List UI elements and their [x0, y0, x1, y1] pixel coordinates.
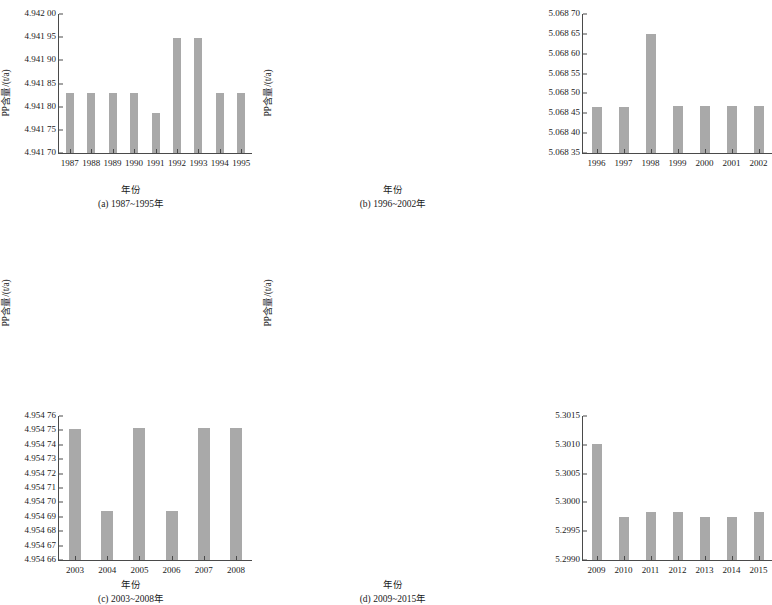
x-tick-b-4 — [705, 149, 706, 153]
x-tick-label-d-2011: 2011 — [642, 565, 660, 575]
bar-a-1993 — [194, 38, 202, 153]
bar-b-2000 — [700, 106, 710, 153]
bar-a-1994 — [216, 93, 224, 153]
bar-a-1990 — [130, 93, 138, 153]
bar-a-1995 — [237, 93, 245, 153]
x-tick-label-c-2007: 2007 — [195, 565, 213, 575]
y-tick-label-b-4: 5.068 50 — [549, 87, 581, 97]
x-tick-b-3 — [678, 149, 679, 153]
bar-b-1999 — [673, 106, 683, 153]
bar-d-2010 — [619, 517, 629, 560]
x-tick-label-b-2002: 2002 — [750, 158, 768, 168]
y-tick-label-a-3: 4.941 85 — [25, 77, 57, 87]
x-tick-d-1 — [624, 556, 625, 560]
y-tick-label-a-0: 4.942 00 — [25, 8, 57, 18]
y-tick-label-a-6: 4.941 70 — [25, 147, 57, 157]
bar-a-1988 — [87, 93, 95, 153]
bar-d-2011 — [646, 512, 656, 560]
x-tick-d-5 — [732, 556, 733, 560]
x-tick-label-b-2001: 2001 — [723, 158, 741, 168]
y-tick-label-c-7: 4.954 69 — [25, 510, 57, 520]
x-tick-label-c-2006: 2006 — [163, 565, 181, 575]
x-tick-label-a-1990: 1990 — [125, 158, 143, 168]
x-tick-label-d-2010: 2010 — [615, 565, 633, 575]
y-tick-label-b-7: 5.068 35 — [549, 147, 581, 157]
y-tick-label-d-4: 5.2995 — [555, 525, 580, 535]
chart-panel-b: PP含量/(t/a) 5.068 705.068 655.068 605.068… — [262, 0, 524, 211]
y-axis-label-d: PP含量/(t/a) — [260, 228, 274, 378]
x-tick-a-6 — [198, 149, 199, 153]
bar-a-1987 — [66, 93, 74, 153]
bar-b-1996 — [592, 107, 602, 153]
x-tick-b-6 — [759, 149, 760, 153]
bar-b-1997 — [619, 107, 629, 153]
bar-c-2004 — [101, 511, 113, 560]
x-tick-a-1 — [91, 149, 92, 153]
x-tick-c-3 — [172, 556, 173, 560]
y-tick-label-c-5: 4.954 71 — [25, 482, 57, 492]
y-tick-label-c-10: 4.954 66 — [25, 554, 57, 564]
x-tick-a-2 — [113, 149, 114, 153]
x-tick-label-b-1997: 1997 — [615, 158, 633, 168]
x-tick-a-7 — [220, 149, 221, 153]
y-tick-label-b-6: 5.068 40 — [549, 127, 581, 137]
bar-d-2013 — [700, 517, 710, 560]
x-tick-label-d-2014: 2014 — [723, 565, 741, 575]
bar-b-1998 — [646, 34, 656, 153]
x-tick-label-c-2008: 2008 — [227, 565, 245, 575]
x-tick-a-0 — [70, 149, 71, 153]
bar-c-2005 — [133, 428, 145, 560]
bar-c-2007 — [198, 428, 210, 560]
x-tick-d-3 — [678, 556, 679, 560]
y-tick-label-b-5: 5.068 45 — [549, 107, 581, 117]
y-tick-label-c-6: 4.954 70 — [25, 496, 57, 506]
x-tick-label-c-2004: 2004 — [98, 565, 116, 575]
x-tick-label-a-1991: 1991 — [147, 158, 165, 168]
y-axis-label-a: PP含量/(t/a) — [0, 18, 12, 168]
x-tick-c-4 — [204, 556, 205, 560]
x-tick-label-a-1993: 1993 — [189, 158, 207, 168]
bar-d-2012 — [673, 512, 683, 560]
y-tick-label-d-0: 5.3015 — [555, 410, 580, 420]
x-tick-label-b-1998: 1998 — [642, 158, 660, 168]
bars-d — [583, 416, 772, 560]
y-tick-label-d-1: 5.3010 — [555, 438, 580, 448]
bar-d-2015 — [754, 512, 764, 560]
x-tick-label-b-1999: 1999 — [669, 158, 687, 168]
y-tick-label-d-5: 5.2990 — [555, 554, 580, 564]
x-axis-label-b: 年份 — [262, 182, 524, 196]
x-tick-d-4 — [705, 556, 706, 560]
chart-panel-a: PP含量/(t/a) 4.942 004.941 954.941 904.941… — [0, 0, 262, 211]
y-tick-label-b-0: 5.068 70 — [549, 8, 581, 18]
x-tick-label-a-1992: 1992 — [168, 158, 186, 168]
x-axis-label-d: 年份 — [262, 577, 524, 591]
x-tick-b-5 — [732, 149, 733, 153]
bar-a-1992 — [173, 38, 181, 153]
y-tick-label-a-1: 4.941 95 — [25, 31, 57, 41]
y-tick-label-c-0: 4.954 76 — [25, 410, 57, 420]
y-tick-label-b-2: 5.068 60 — [549, 47, 581, 57]
x-tick-label-a-1994: 1994 — [211, 158, 229, 168]
x-tick-c-2 — [139, 556, 140, 560]
x-tick-label-a-1987: 1987 — [61, 158, 79, 168]
y-tick-label-c-2: 4.954 74 — [25, 438, 57, 448]
x-tick-label-c-2005: 2005 — [130, 565, 148, 575]
bar-c-2006 — [166, 511, 178, 560]
y-tick-label-d-3: 5.3000 — [555, 496, 580, 506]
bar-d-2009 — [592, 444, 602, 560]
bar-b-2001 — [727, 106, 737, 153]
x-tick-label-a-1989: 1989 — [104, 158, 122, 168]
bar-d-2014 — [727, 517, 737, 560]
caption-c: (c) 2003~2008年 — [0, 591, 262, 605]
x-axis-label-c: 年份 — [0, 577, 262, 591]
x-tick-label-b-2000: 2000 — [696, 158, 714, 168]
bar-a-1989 — [109, 93, 117, 153]
y-tick-label-a-2: 4.941 90 — [25, 54, 57, 64]
y-tick-label-a-5: 4.941 75 — [25, 123, 57, 133]
x-tick-b-0 — [597, 149, 598, 153]
y-tick-label-c-1: 4.954 75 — [25, 424, 57, 434]
y-tick-label-c-9: 4.954 67 — [25, 539, 57, 549]
x-tick-b-1 — [624, 149, 625, 153]
y-axis-label-c: PP含量/(t/a) — [0, 228, 12, 378]
